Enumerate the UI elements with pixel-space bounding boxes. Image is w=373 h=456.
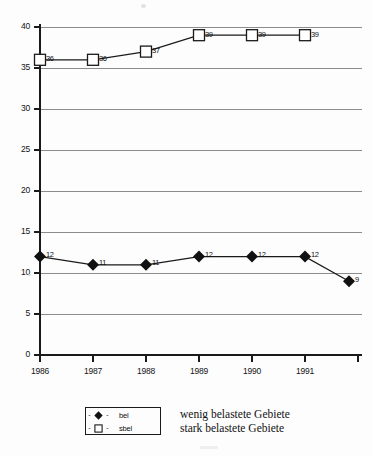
- x-tick-label: 1988: [126, 367, 166, 376]
- y-tick-label: 20: [8, 186, 30, 195]
- data-label-bel: 12: [258, 251, 266, 259]
- data-label-bel: 12: [46, 251, 54, 259]
- scan-speck: [200, 446, 218, 449]
- x-tick-label: 1990: [232, 367, 272, 376]
- x-tick-label: 1986: [20, 367, 60, 376]
- legend-dash-left: -: [86, 408, 93, 422]
- marker-open-square: [194, 30, 205, 41]
- y-tick-label: 0: [8, 350, 30, 359]
- open-square-icon: [93, 424, 104, 433]
- series-markers-bel: [34, 251, 355, 288]
- legend-label-sbel: sbel: [119, 424, 132, 433]
- marker-filled-diamond: [343, 275, 355, 287]
- legend-dash-left: -: [86, 421, 93, 435]
- data-label-sbel: 39: [311, 31, 319, 39]
- x-tick-label: 1987: [73, 367, 113, 376]
- data-label-bel: 12: [205, 251, 213, 259]
- data-label-sbel: 36: [46, 55, 54, 63]
- chart-legend: - - bel - - sbel: [85, 407, 161, 435]
- y-tick-label: 5: [8, 309, 30, 318]
- y-tick-label: 10: [8, 268, 30, 277]
- chart-plot-area: [0, 0, 373, 456]
- marker-filled-diamond: [299, 251, 311, 263]
- filled-diamond-icon: [93, 411, 104, 420]
- line-chart: 40 35 30 25 20 15 10 5 0 1986 1987 1988 …: [0, 0, 373, 456]
- y-tick-label: 25: [8, 145, 30, 154]
- marker-filled-diamond: [87, 259, 99, 271]
- gridlines: [40, 27, 362, 314]
- data-label-bel: 11: [99, 259, 106, 267]
- data-label-sbel: 39: [258, 31, 266, 39]
- data-label-bel: 12: [311, 251, 319, 259]
- legend-description-sbel: stark belastete Gebiete: [180, 422, 284, 434]
- legend-dash-right: -: [104, 408, 111, 422]
- legend-item-bel: - - bel: [86, 408, 162, 422]
- data-label-sbel: 39: [205, 31, 213, 39]
- legend-label-bel: bel: [119, 411, 128, 420]
- legend-description-bel: wenig belastete Gebiete: [180, 408, 290, 420]
- data-label-bel: 11: [152, 259, 159, 267]
- y-tick-label: 35: [8, 63, 30, 72]
- marker-open-square: [35, 54, 46, 65]
- marker-open-square: [247, 30, 258, 41]
- data-label-bel: 9: [355, 276, 359, 284]
- scan-speck: [28, 274, 31, 276]
- y-tick-label: 30: [8, 104, 30, 113]
- marker-filled-diamond: [140, 259, 152, 271]
- x-tick-label: 1989: [179, 367, 219, 376]
- y-tick-label: 40: [8, 22, 30, 31]
- marker-open-square: [141, 46, 152, 57]
- data-label-sbel: 37: [152, 47, 160, 55]
- x-axis-ticks: [40, 355, 358, 362]
- marker-filled-diamond: [34, 251, 46, 263]
- scan-speck: [141, 4, 146, 8]
- legend-dash-right: -: [104, 421, 111, 435]
- series-line-bel: [40, 257, 349, 282]
- legend-item-sbel: - - sbel: [86, 421, 162, 435]
- x-tick-label: 1991: [285, 367, 325, 376]
- marker-open-square: [88, 54, 99, 65]
- data-label-sbel: 36: [99, 55, 107, 63]
- marker-filled-diamond: [246, 251, 258, 263]
- y-axis-ticks: [34, 27, 40, 355]
- marker-open-square: [300, 30, 311, 41]
- marker-filled-diamond: [193, 251, 205, 263]
- y-tick-label: 15: [8, 227, 30, 236]
